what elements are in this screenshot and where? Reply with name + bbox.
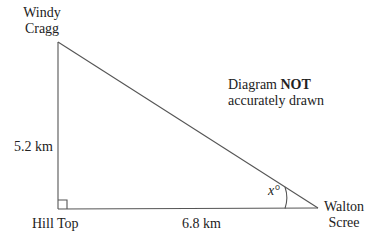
vertex-label-hill-top: Hill Top	[32, 216, 79, 232]
vertex-label-walton-scree: Walton Scree	[318, 199, 370, 231]
right-angle-marker	[58, 200, 67, 209]
vertex-label-line: Scree	[318, 215, 370, 231]
note-prefix: Diagram	[228, 77, 280, 92]
not-to-scale-note: Diagram NOT accurately drawn	[228, 77, 324, 109]
note-line-2: accurately drawn	[228, 93, 324, 109]
note-line-1: Diagram NOT	[228, 77, 324, 93]
note-bold: NOT	[280, 77, 310, 92]
vertex-label-line: Windy	[14, 5, 70, 21]
side-horizontal	[58, 208, 318, 209]
angle-arc	[285, 187, 287, 209]
vertex-label-line: Cragg	[14, 21, 70, 37]
side-label-5-2km: 5.2 km	[14, 139, 53, 155]
angle-label-x: x°	[268, 183, 280, 199]
side-label-6-8km: 6.8 km	[182, 216, 221, 232]
vertex-label-windy-cragg: Windy Cragg	[14, 5, 70, 37]
vertex-label-line: Walton	[318, 199, 370, 215]
